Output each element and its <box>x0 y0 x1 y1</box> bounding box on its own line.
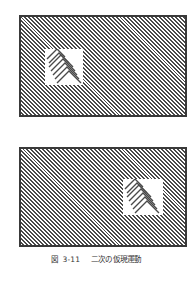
frame-1-panel <box>19 15 187 117</box>
figure-caption: 図 3-11 二次の仮現運動 <box>0 253 192 264</box>
figure-number: 3-11 <box>62 255 80 264</box>
figure-label: 図 <box>51 255 58 264</box>
frame-2-chevron-patch <box>123 179 163 215</box>
chevron-stripes-icon <box>123 179 163 215</box>
figure-title: 二次の仮現運動 <box>91 255 141 264</box>
frame-2-panel <box>19 147 187 247</box>
chevron-stripes-icon <box>45 49 83 85</box>
frame-1-chevron-patch <box>45 49 83 85</box>
